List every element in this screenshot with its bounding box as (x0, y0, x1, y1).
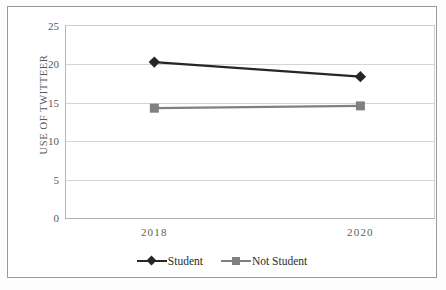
data-point-square (150, 104, 159, 113)
legend-marker-icon (137, 255, 167, 267)
data-point-square (356, 101, 365, 110)
data-point-diamond (355, 71, 366, 82)
legend-marker-icon (221, 255, 251, 267)
series-line (154, 62, 360, 77)
y-tick-label: 0 (54, 212, 60, 224)
y-tick-label: 15 (48, 97, 59, 109)
x-tick-label: 2018 (141, 226, 168, 238)
legend-label: Not Student (252, 255, 307, 267)
series-line (154, 106, 360, 108)
data-series-layer (66, 26, 434, 218)
y-tick-label: 20 (48, 58, 59, 70)
plot-area: 0510152025 20182020 (65, 25, 435, 219)
x-tick-label: 2020 (347, 226, 374, 238)
legend-label: Student (168, 255, 203, 267)
y-tick-label: 10 (48, 135, 59, 147)
chart-legend: StudentNot Student (8, 255, 436, 267)
y-tick-label: 5 (54, 174, 60, 186)
chart-figure: USE OF TWITTEER 0510152025 20182020 Stud… (0, 0, 446, 290)
y-tick-label: 25 (48, 20, 59, 32)
chart-frame: USE OF TWITTEER 0510152025 20182020 Stud… (7, 6, 437, 278)
y-axis-title: USE OF TWITTEER (38, 25, 49, 185)
legend-item-student[interactable]: Student (137, 255, 203, 267)
data-point-diamond (149, 56, 160, 67)
legend-item-not-student[interactable]: Not Student (221, 255, 307, 267)
